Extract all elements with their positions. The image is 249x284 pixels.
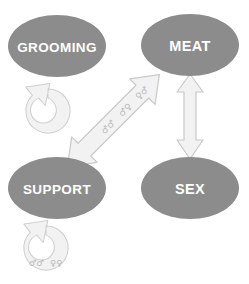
node-support[interactable]: SUPPORT (8, 157, 106, 219)
diagonal-edge-labels: ♂♂ ♂♀ ♀♂ (99, 84, 151, 136)
node-grooming-label: GROOMING (17, 40, 97, 55)
vertical-double-arrow-shape (177, 74, 203, 159)
grooming-loop-shape (26, 83, 70, 133)
edge-grooming-self-loop[interactable] (26, 83, 70, 133)
node-meat[interactable]: MEAT (141, 14, 239, 76)
support-loop-label-0: ♂♂ (28, 258, 44, 268)
node-support-label: SUPPORT (23, 182, 91, 197)
node-meat-label: MEAT (169, 38, 211, 54)
node-sex-label: SEX (175, 181, 205, 197)
edge-meat-sex-vertical[interactable] (177, 74, 203, 159)
node-sex[interactable]: SEX (141, 157, 239, 219)
diagram-canvas: ♂♂ ♂♀ ♀♂ ♂♂ ♀♀ GROOMING MEAT (0, 0, 249, 284)
support-loop-label-1: ♀♀ (50, 258, 62, 268)
node-grooming[interactable]: GROOMING (8, 15, 106, 77)
relationship-diagram: ♂♂ ♂♀ ♀♂ ♂♂ ♀♀ GROOMING MEAT (0, 0, 249, 284)
